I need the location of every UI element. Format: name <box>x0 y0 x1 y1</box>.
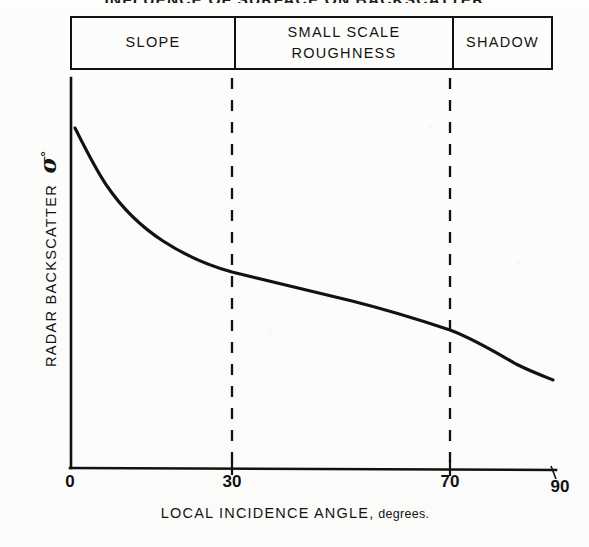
x-tick-label-0: 0 <box>48 472 92 492</box>
x-axis-title-units: degrees. <box>374 507 429 521</box>
x-axis-title: LOCAL INCIDENCE ANGLE, degrees. <box>70 505 520 521</box>
figure-canvas: INFLUENCE OF SURFACE ON BACKSCATTER SLOP… <box>0 0 589 547</box>
x-tick-label-90: 90 <box>538 477 582 497</box>
sigma-symbol: σ <box>34 156 61 173</box>
backscatter-curve <box>75 128 553 380</box>
x-axis-line <box>70 468 556 470</box>
x-tick-label-70: 70 <box>428 472 472 492</box>
x-axis-title-main: LOCAL INCIDENCE ANGLE, <box>161 505 375 521</box>
x-tick-label-30: 30 <box>210 472 254 492</box>
y-axis-title: RADAR BACKSCATTER σ° <box>34 94 61 424</box>
y-axis-title-main: RADAR BACKSCATTER <box>43 184 59 367</box>
degree-symbol: ° <box>38 150 53 157</box>
plot-area <box>0 0 589 547</box>
